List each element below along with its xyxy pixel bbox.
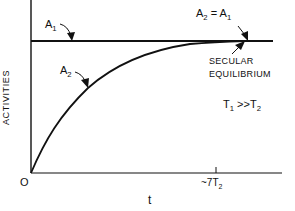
- eq-a1-sub: 1: [227, 13, 231, 22]
- tick-main: T: [212, 177, 218, 188]
- x-axis-label: t: [148, 194, 151, 206]
- label-a2-equals-a1: A2 = A1: [196, 8, 231, 19]
- label-a1-sub: 1: [52, 24, 56, 33]
- a2-arrowhead-icon: [81, 78, 89, 88]
- tick-sub: 2: [219, 183, 223, 190]
- eq-a2-sub: 2: [203, 13, 207, 22]
- secular-pointer-arrow: [232, 47, 239, 54]
- t1-sub: 1: [230, 104, 234, 113]
- label-a2: A2: [60, 65, 72, 76]
- label-a1: A1: [45, 19, 57, 30]
- tick-prefix: ~7: [201, 177, 212, 188]
- t1-main: T: [223, 98, 230, 110]
- y-axis-label: ACTIVITIES: [2, 70, 11, 125]
- much-greater-sign: >>: [234, 98, 250, 110]
- label-equilibrium: EQUILIBRIUM: [209, 70, 271, 79]
- origin-label: O: [20, 177, 29, 188]
- label-t1-gg-t2: T1 >>T2: [223, 99, 261, 110]
- eq-sign: =: [208, 7, 220, 19]
- x-tick-label: ~7T2: [201, 178, 222, 188]
- eq-a1-main: A: [220, 7, 227, 19]
- t2-sub: 2: [257, 104, 261, 113]
- label-secular: SECULAR: [209, 57, 254, 66]
- a1-arrowhead-icon: [67, 32, 75, 41]
- t2-main: T: [250, 98, 257, 110]
- label-a2-sub: 2: [67, 70, 71, 79]
- eq-arrowhead-top-icon: [241, 31, 248, 41]
